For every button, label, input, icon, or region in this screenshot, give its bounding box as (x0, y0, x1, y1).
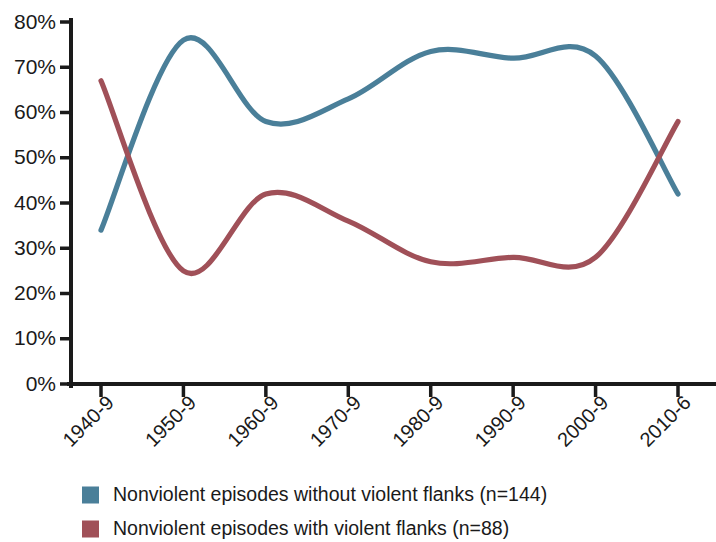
legend-item[interactable]: Nonviolent episodes without violent flan… (82, 483, 547, 505)
legend-label: Nonviolent episodes without violent flan… (113, 483, 547, 505)
y-axis-tick-labels: 0%10%20%30%40%50%60%70%80% (14, 10, 56, 395)
line-chart: 0%10%20%30%40%50%60%70%80% 1940-91950-91… (0, 0, 716, 542)
y-axis-tick-label: 10% (14, 326, 56, 349)
y-axis-tick-label: 80% (14, 10, 56, 33)
legend-swatch-red (82, 521, 99, 538)
y-axis-tick-label: 30% (14, 236, 56, 259)
legend-label: Nonviolent episodes with violent flanks … (113, 517, 509, 539)
chart-svg: 0%10%20%30%40%50%60%70%80% 1940-91950-91… (0, 0, 716, 542)
legend-swatch-blue (82, 487, 99, 504)
legend-item[interactable]: Nonviolent episodes with violent flanks … (82, 517, 509, 539)
y-axis-tick-label: 50% (14, 145, 56, 168)
chart-background (0, 0, 716, 542)
y-axis-tick-label: 40% (14, 191, 56, 214)
y-axis-tick-label: 60% (14, 100, 56, 123)
y-axis-tick-label: 20% (14, 281, 56, 304)
y-axis-tick-label: 0% (26, 372, 56, 395)
y-axis-tick-label: 70% (14, 55, 56, 78)
